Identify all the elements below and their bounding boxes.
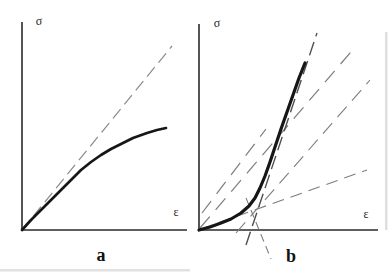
panel-a-stress-strain-curve [22,128,166,230]
stress-strain-two-panel-figure: σ ε a σ ε b [0,0,392,276]
panel-b-sigma-axis-label: σ [214,17,220,29]
panel-b-epsilon-axis-label: ε [363,208,368,220]
figure-canvas [0,0,392,276]
panel-a-letter: a [97,246,106,264]
panel-a-epsilon-axis-label: ε [173,206,178,218]
scan-artifact-1 [385,32,388,230]
panel-b-axes [199,24,378,230]
panel-a-initial-tangent-line [22,46,172,230]
panel-b-steep-tangent-line [246,33,317,245]
panel-b-lower-secant-diagonal [236,80,370,233]
panel-b-upper-offset-diagonal [202,129,266,213]
scan-artifact-0 [0,269,190,272]
panel-b-letter: b [286,247,296,265]
panel-a-sigma-axis-label: σ [36,15,42,27]
